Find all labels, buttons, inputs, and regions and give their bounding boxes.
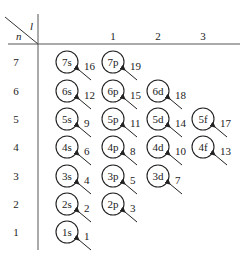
orbital-label: 3d bbox=[153, 170, 165, 182]
orbital-label: 4d bbox=[153, 141, 165, 153]
orbital-3s: 3s4 bbox=[56, 165, 91, 194]
orbital-4s: 4s6 bbox=[56, 136, 91, 165]
filling-order-number: 10 bbox=[175, 145, 187, 157]
orbital-4p: 4p8 bbox=[102, 136, 137, 165]
orbital-5d: 5d14 bbox=[147, 108, 187, 137]
orbital-label: 3s bbox=[62, 170, 72, 182]
orbital-label: 2p bbox=[108, 198, 120, 210]
n-axis-label: n bbox=[16, 30, 22, 42]
orbital-label: 4f bbox=[198, 141, 208, 153]
orbital-6s: 6s12 bbox=[56, 80, 95, 109]
orbital-label: 6p bbox=[108, 85, 120, 97]
orbital-label: 5d bbox=[153, 113, 165, 125]
orbital-label: 5s bbox=[62, 113, 72, 125]
orbital-label: 1s bbox=[62, 226, 72, 238]
row-label: 7 bbox=[13, 56, 19, 68]
filling-order-number: 19 bbox=[130, 60, 142, 72]
orbital-6d: 6d18 bbox=[147, 80, 187, 109]
filling-order-number: 5 bbox=[130, 174, 136, 186]
orbital-2p: 2p3 bbox=[102, 193, 137, 222]
row-label: 4 bbox=[13, 141, 19, 153]
aufbau-diagram: l n 123 7654321 7s167p196s126p156d185s95… bbox=[0, 0, 251, 256]
orbital-5p: 5p11 bbox=[102, 108, 141, 137]
filling-order-number: 11 bbox=[130, 117, 141, 129]
filling-order-number: 14 bbox=[175, 117, 187, 129]
row-label: 3 bbox=[13, 170, 19, 182]
orbital-7p: 7p19 bbox=[102, 51, 142, 80]
l-axis-label: l bbox=[30, 20, 33, 32]
filling-order-number: 3 bbox=[130, 202, 136, 214]
orbital-label: 4s bbox=[62, 141, 72, 153]
orbital-4d: 4d10 bbox=[147, 136, 187, 165]
filling-order-number: 16 bbox=[84, 60, 96, 72]
filling-order-number: 12 bbox=[84, 89, 95, 101]
orbital-label: 6d bbox=[153, 85, 165, 97]
orbital-3p: 3p5 bbox=[102, 165, 137, 194]
filling-order-number: 2 bbox=[84, 202, 90, 214]
orbital-label: 6s bbox=[62, 85, 72, 97]
filling-order-number: 13 bbox=[220, 145, 232, 157]
orbital-label: 3p bbox=[108, 170, 120, 182]
orbital-label: 2s bbox=[62, 198, 72, 210]
filling-order-number: 9 bbox=[84, 117, 90, 129]
row-label: 5 bbox=[13, 113, 19, 125]
orbital-2s: 2s2 bbox=[56, 193, 91, 222]
column-label: 2 bbox=[155, 30, 161, 42]
row-label: 6 bbox=[13, 85, 19, 97]
orbital-5s: 5s9 bbox=[56, 108, 91, 137]
filling-order-number: 17 bbox=[220, 117, 232, 129]
orbital-3d: 3d7 bbox=[147, 165, 182, 194]
filling-order-number: 8 bbox=[130, 145, 136, 157]
orbital-label: 7p bbox=[108, 56, 120, 68]
orbital-6p: 6p15 bbox=[102, 80, 142, 109]
orbital-label: 4p bbox=[108, 141, 120, 153]
orbital-1s: 1s1 bbox=[56, 221, 91, 250]
orbital-5f: 5f17 bbox=[192, 108, 232, 137]
filling-order-number: 7 bbox=[175, 174, 181, 186]
filling-order-number: 18 bbox=[175, 89, 187, 101]
filling-order-number: 4 bbox=[84, 174, 90, 186]
column-label: 1 bbox=[110, 30, 116, 42]
orbital-label: 7s bbox=[62, 56, 72, 68]
orbital-4f: 4f13 bbox=[192, 136, 232, 165]
filling-order-number: 1 bbox=[84, 230, 90, 242]
row-label: 2 bbox=[13, 198, 19, 210]
column-label: 3 bbox=[200, 30, 206, 42]
filling-order-number: 6 bbox=[84, 145, 90, 157]
orbital-label: 5p bbox=[108, 113, 120, 125]
filling-order-number: 15 bbox=[130, 89, 142, 101]
orbital-label: 5f bbox=[198, 113, 208, 125]
orbital-7s: 7s16 bbox=[56, 51, 96, 80]
row-label: 1 bbox=[13, 226, 19, 238]
